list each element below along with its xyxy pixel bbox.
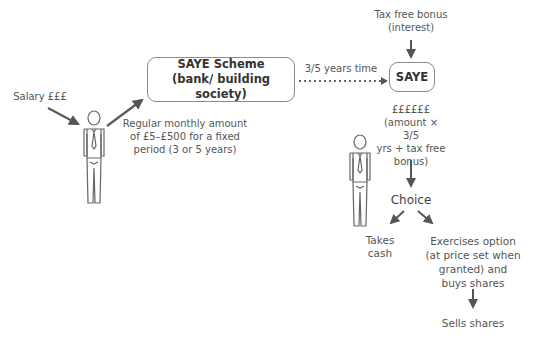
person-icon bbox=[350, 135, 370, 226]
sells-shares-label: Sells shares bbox=[432, 317, 514, 330]
payout-label: ££££££ (amount × 3/5 yrs + tax free bonu… bbox=[375, 103, 447, 168]
diagram-connectors bbox=[0, 0, 540, 347]
option-cash-label: Takes cash bbox=[355, 234, 405, 260]
salary-arrow bbox=[48, 108, 78, 124]
choice-cash-arrow bbox=[391, 211, 404, 223]
scheme-title: SAYE Scheme bbox=[177, 57, 264, 72]
choice-exercise-arrow bbox=[418, 211, 432, 223]
scheme-subtitle: (bank/ building society) bbox=[148, 72, 294, 102]
saye-scheme-box: SAYE Scheme (bank/ building society) bbox=[147, 57, 295, 102]
bonus-label: Tax free bonus (interest) bbox=[366, 8, 456, 34]
contribution-label: Regular monthly amount of £5–£500 for a … bbox=[118, 117, 252, 156]
choice-label: Choice bbox=[381, 193, 441, 208]
saye-box: SAYE bbox=[389, 62, 435, 92]
salary-label: Salary £££ bbox=[10, 90, 70, 103]
time-dotted-arrow bbox=[299, 77, 388, 85]
person-icon bbox=[84, 111, 104, 203]
time-label: 3/5 years time bbox=[300, 62, 382, 75]
option-exercise-label: Exercises option (at price set when gran… bbox=[424, 234, 522, 290]
